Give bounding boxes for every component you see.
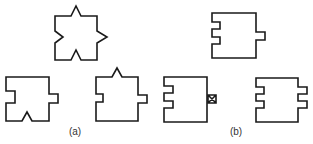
panel-label-b: (b) [230, 127, 242, 137]
panel-a [6, 6, 147, 121]
block-serrated-left-crossed-box-right-shape [164, 77, 207, 122]
panel-b [164, 13, 307, 122]
puzzle-shapes-figure: (a) (b) [0, 0, 313, 144]
block-serrated-left-tab-right-shape [212, 13, 265, 58]
block-serrated-left-serrated-right-shape [256, 78, 307, 122]
panel-label-a: (a) [69, 127, 81, 137]
square-notch-left-tab-right-notch-bottom-shape [6, 77, 58, 121]
diagram-canvas [0, 0, 313, 144]
crossed-box-icon [208, 95, 216, 103]
square-spike-top-notch-left-spike-right-notch-bottom-shape [55, 6, 107, 60]
square-spike-top-notch-left-tab-right-shape [96, 68, 147, 121]
